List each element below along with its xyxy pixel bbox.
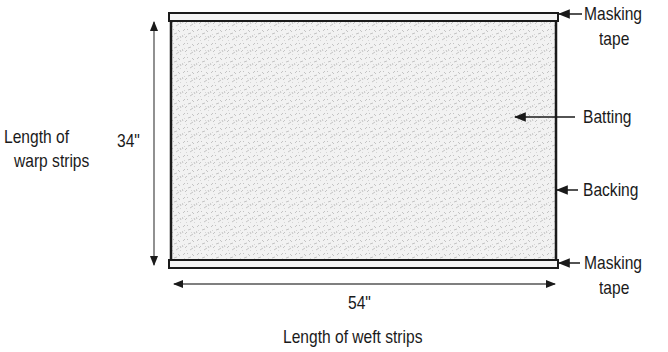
- weft-dimension-value: 54": [348, 292, 371, 314]
- batting-label: Batting: [583, 106, 632, 128]
- backing-label: Backing: [583, 179, 638, 201]
- quilt-layout-diagram: [0, 0, 668, 352]
- masking-tape-bottom-label-line2: tape: [599, 277, 629, 299]
- masking-tape-top-label-line1: Masking: [584, 3, 642, 25]
- warp-dimension-value: 34": [117, 130, 140, 152]
- masking-tape-top-label-line2: tape: [599, 28, 629, 50]
- masking-tape-top: [169, 13, 558, 21]
- masking-tape-bottom: [169, 260, 558, 268]
- masking-tape-bottom-label-line1: Masking: [584, 252, 642, 274]
- weft-length-label: Length of weft strips: [283, 326, 422, 348]
- warp-length-label-line2: warp strips: [14, 150, 89, 172]
- warp-length-label-line1: Length of: [4, 126, 69, 148]
- batting-area: [171, 18, 556, 264]
